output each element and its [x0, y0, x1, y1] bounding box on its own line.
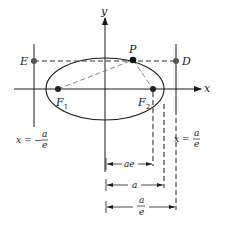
svg-text:ae: ae — [124, 159, 135, 169]
svg-text:x = −: x = − — [16, 135, 42, 145]
svg-text:a: a — [42, 129, 47, 139]
left-directrix-label: x = − a e — [16, 129, 48, 150]
dimension-a: a — [106, 179, 163, 191]
right-directrix-label: x = a e — [174, 128, 200, 149]
svg-text:a: a — [132, 180, 137, 190]
point-F2 — [150, 86, 156, 92]
y-axis-label: y — [100, 5, 108, 18]
svg-text:x =: x = — [174, 134, 189, 144]
svg-text:e: e — [194, 139, 199, 149]
label-E: E — [19, 55, 28, 68]
svg-text:e: e — [139, 207, 144, 217]
point-D — [173, 58, 179, 64]
label-F2: F2 — [137, 96, 150, 111]
point-F1 — [55, 86, 61, 92]
x-axis-label: x — [204, 82, 211, 95]
focal-radius-PF2 — [133, 60, 153, 89]
point-E — [31, 58, 37, 64]
label-D: D — [181, 55, 191, 68]
dimension-a-over-e: a e — [106, 195, 175, 217]
label-F1: F1 — [55, 96, 68, 111]
svg-text:a: a — [139, 195, 144, 205]
dimension-ae: ae — [106, 158, 152, 170]
point-P — [130, 57, 137, 64]
svg-text:e: e — [42, 140, 47, 150]
ellipse-diagram: x y E D P F1 F2 x = − a e x = a e — [0, 0, 226, 229]
svg-text:a: a — [194, 128, 199, 138]
label-P: P — [128, 43, 137, 56]
